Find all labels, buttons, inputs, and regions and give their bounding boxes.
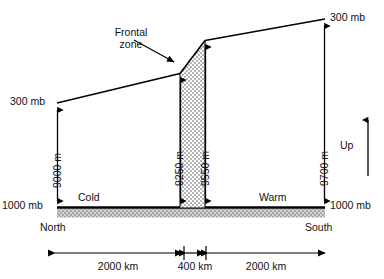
label-thickness-9550m: 9550 m [200,151,211,186]
label-north: North [40,222,66,233]
label-distance-right: 2000 km [226,261,306,272]
diagram-canvas: 300 mb 1000 mb 300 mb 1000 mb 9000 m 925… [0,0,384,279]
label-right-1000mb: 1000 mb [330,200,371,211]
label-frontal-zone-line2: zone [100,39,162,50]
distance-scale-bar [55,246,325,260]
label-cold-air: Cold [78,192,100,203]
label-left-300mb: 300 mb [10,96,45,107]
label-warm-air: Warm [259,192,287,203]
label-thickness-9250m: 9250 m [174,151,185,186]
label-distance-left: 2000 km [78,261,158,272]
label-up: Up [340,140,353,151]
label-south: South [305,222,332,233]
label-frontal-zone-line1: Frontal [100,27,162,38]
label-right-300mb: 300 mb [330,12,365,23]
label-thickness-9000m: 9000 m [52,153,63,188]
frontal-zone-cross-section [0,0,384,279]
label-thickness-9700m: 9700 m [319,151,330,186]
ground-surface [57,208,325,218]
label-left-1000mb: 1000 mb [2,200,43,211]
label-distance-middle: 400 km [165,261,225,272]
